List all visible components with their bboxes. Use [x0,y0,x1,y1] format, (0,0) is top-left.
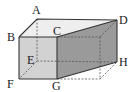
prism-diagram: A B C D E F G H [0,0,139,92]
vertex-label-d: D [119,13,128,27]
vertex-label-b: B [7,30,15,44]
vertex-label-f: F [7,77,14,91]
vertex-label-c: C [53,24,61,38]
vertex-label-h: H [119,55,128,69]
vertex-label-g: G [52,79,61,92]
vertex-label-e: E [27,53,34,67]
vertex-label-a: A [32,3,41,17]
front-face [19,37,57,79]
